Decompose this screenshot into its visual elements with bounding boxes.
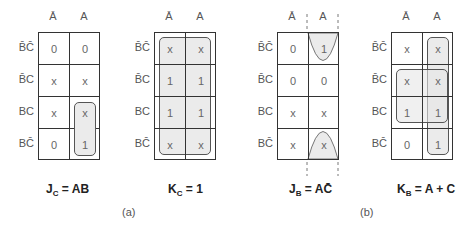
cell: 1: [186, 65, 216, 97]
cell: 0: [309, 65, 339, 97]
col-label-a: A: [69, 10, 99, 22]
row-label-2: BC: [116, 105, 150, 117]
row-label-0: B̄C̄: [353, 41, 387, 53]
row-label-0: B̄C̄: [0, 41, 34, 53]
col-label-a: A: [422, 10, 452, 22]
kmap-grid: x x x x 1 1 0 1: [391, 32, 453, 160]
cell: 0: [278, 33, 308, 65]
cell: 1: [392, 97, 422, 129]
cell: x: [278, 129, 308, 161]
equation: JC = AB: [46, 182, 89, 198]
equation: KB = A + C: [397, 182, 455, 198]
row-label-1: B̄C: [353, 73, 387, 85]
cell: 0: [39, 33, 69, 65]
row-label-1: B̄C: [0, 73, 34, 85]
col-label-a-bar: Ā: [391, 10, 421, 22]
cell: 1: [423, 129, 453, 161]
kmap-grid: 0 1 0 0 x x x x: [277, 32, 339, 160]
cell: x: [70, 65, 100, 97]
row-label-3: BC̄: [0, 137, 34, 149]
cell: 0: [392, 129, 422, 161]
caption-a: (a): [122, 206, 135, 218]
cell: 1: [70, 129, 100, 161]
row-label-1: B̄C: [116, 73, 150, 85]
equation: KC = 1: [168, 182, 203, 198]
cell: x: [39, 97, 69, 129]
row-label-3: BC̄: [353, 137, 387, 149]
cell: 1: [186, 97, 216, 129]
cell: x: [70, 97, 100, 129]
kmap-grid: 0 0 x x x x 0 1: [38, 32, 100, 160]
cell: 0: [278, 65, 308, 97]
cell: x: [392, 33, 422, 65]
cell: x: [309, 129, 339, 161]
cell: x: [186, 33, 216, 65]
kmap-jc: Ā A B̄C̄ B̄C BC BC̄ 0 0 x x x x 0 1 JC =…: [0, 0, 110, 200]
row-label-0: B̄C̄: [116, 41, 150, 53]
cell: x: [423, 33, 453, 65]
caption-b: (b): [360, 206, 373, 218]
cell: x: [309, 97, 339, 129]
col-label-a: A: [185, 10, 215, 22]
cell: x: [423, 65, 453, 97]
row-label-2: BC: [0, 105, 34, 117]
cell: x: [186, 129, 216, 161]
kmap-jb: Ā A B̄C̄ B̄C BC BC̄ 0 1 0 0 x x x x JB =…: [239, 0, 349, 200]
col-label-a-bar: Ā: [154, 10, 184, 22]
col-label-a-bar: Ā: [38, 10, 68, 22]
row-label-3: BC̄: [116, 137, 150, 149]
row-label-2: BC: [353, 105, 387, 117]
cell: x: [155, 33, 185, 65]
cell: 1: [309, 33, 339, 65]
cell: 1: [155, 97, 185, 129]
cell: x: [392, 65, 422, 97]
cell: 1: [155, 65, 185, 97]
kmap-grid: x x 1 1 1 1 x x: [154, 32, 216, 160]
cell: 1: [423, 97, 453, 129]
kmap-kc: Ā A B̄C̄ B̄C BC BC̄ x x 1 1 1 1 x x KC =…: [116, 0, 226, 200]
cell: x: [278, 97, 308, 129]
cell: 0: [70, 33, 100, 65]
cell: x: [39, 65, 69, 97]
kmap-kb: Ā A B̄C̄ B̄C BC BC̄ x x x x 1 1 0 1 KB =…: [353, 0, 463, 200]
cell: x: [155, 129, 185, 161]
cell: 0: [39, 129, 69, 161]
